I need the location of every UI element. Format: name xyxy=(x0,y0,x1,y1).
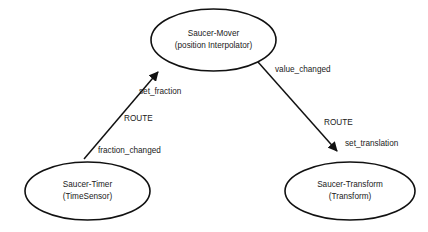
node-saucer-mover-subtitle: (position Interpolator) xyxy=(175,41,253,50)
node-saucer-timer-title: Saucer-Timer xyxy=(63,180,113,189)
diagram-canvas: Saucer-Mover (position Interpolator) Sau… xyxy=(0,0,428,232)
node-saucer-mover[interactable] xyxy=(151,9,276,71)
edge-label-route-left: ROUTE xyxy=(124,114,153,123)
node-saucer-timer-subtitle: (TimeSensor) xyxy=(63,192,113,201)
edge-mover-to-transform xyxy=(258,62,337,151)
edge-label-route-right: ROUTE xyxy=(324,118,353,127)
edge-label-set-translation: set_translation xyxy=(345,139,399,148)
node-saucer-transform[interactable] xyxy=(285,162,415,220)
edge-label-fraction-changed: fraction_changed xyxy=(98,146,161,155)
route-diagram: Saucer-Mover (position Interpolator) Sau… xyxy=(0,0,428,232)
node-saucer-transform-subtitle: (Transform) xyxy=(329,192,372,201)
edge-label-set-fraction: set_fraction xyxy=(139,87,182,96)
node-saucer-mover-title: Saucer-Mover xyxy=(188,29,240,38)
node-saucer-transform-title: Saucer-Transform xyxy=(317,180,383,189)
edge-label-value-changed: value_changed xyxy=(275,65,331,74)
node-saucer-timer[interactable] xyxy=(25,162,150,220)
